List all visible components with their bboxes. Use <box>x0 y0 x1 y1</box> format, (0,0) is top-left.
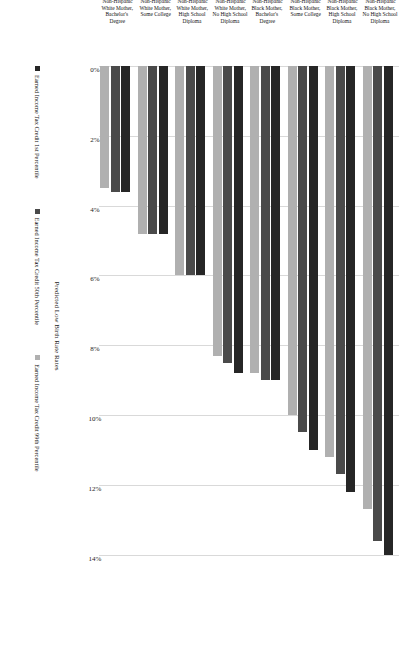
bar-group <box>174 66 212 586</box>
bar-group <box>212 66 250 586</box>
value-axis-tick-labels: 0%2%4%6%8%10%12%14% <box>69 66 95 586</box>
chart-legend: Earned Income Tax Credit 1st PercentileE… <box>11 66 41 626</box>
tick-label: 6% <box>90 275 99 283</box>
category-label: Non-Hispanic Black Mother, High School D… <box>324 0 362 62</box>
bar <box>384 66 393 555</box>
category-label: Non-Hispanic White Mother, Bachelor's De… <box>99 0 137 62</box>
bar <box>336 66 345 474</box>
bar-group <box>362 66 400 586</box>
bar <box>309 66 318 450</box>
bar <box>251 66 260 373</box>
bar <box>363 66 372 509</box>
bar <box>186 66 195 275</box>
bar <box>261 66 270 380</box>
legend-swatch-icon <box>35 209 40 214</box>
bar <box>111 66 120 192</box>
bar-group <box>137 66 175 586</box>
category-label: Non-Hispanic Black Mother, No High Schoo… <box>362 0 400 62</box>
bar <box>326 66 335 457</box>
tick-label: 14% <box>89 555 102 563</box>
tick-label: 12% <box>89 485 102 493</box>
bar-group <box>324 66 362 586</box>
bar-group <box>99 66 137 586</box>
bar-chart: Non-Hispanic Black Mother, No High Schoo… <box>0 0 413 653</box>
tick-label: 0% <box>90 66 99 74</box>
category-label: Non-Hispanic Black Mother, Some College <box>287 0 325 62</box>
bar <box>224 66 233 363</box>
bar <box>176 66 185 275</box>
category-label: Non-Hispanic Black Mother, Bachelor's De… <box>249 0 287 62</box>
bar <box>213 66 222 356</box>
bar <box>374 66 383 541</box>
tick-label: 2% <box>90 136 99 144</box>
bar <box>159 66 168 234</box>
tick-label: 8% <box>90 345 99 353</box>
tick-label: 10% <box>89 415 102 423</box>
bar-group <box>287 66 325 586</box>
legend-item[interactable]: Earned Income Tax Credit 50th Percentile <box>34 209 41 326</box>
bar <box>272 66 281 380</box>
bar <box>138 66 147 234</box>
value-axis-title: Predicted Low Birth Rate Rates <box>53 66 61 586</box>
bar <box>197 66 206 275</box>
legend-label: Earned Income Tax Credit 1st Percentile <box>34 75 41 179</box>
plot-area <box>99 66 399 586</box>
legend-swatch-icon <box>35 66 40 71</box>
category-axis-labels: Non-Hispanic Black Mother, No High Schoo… <box>99 0 399 64</box>
legend-label: Earned Income Tax Credit 50th Percentile <box>34 218 41 326</box>
category-label: Non-Hispanic White Mother, High School D… <box>174 0 212 62</box>
chart-stage: Non-Hispanic Black Mother, No High Schoo… <box>0 0 413 653</box>
bar <box>122 66 131 192</box>
legend-item[interactable]: Earned Income Tax Credit 1st Percentile <box>34 66 41 179</box>
bar <box>299 66 308 432</box>
tick-label: 4% <box>90 206 99 214</box>
bar <box>234 66 243 373</box>
category-label: Non-Hispanic White Mother, No High Schoo… <box>212 0 250 62</box>
bar <box>347 66 356 492</box>
category-label: Non-Hispanic White Mother, Some College <box>137 0 175 62</box>
legend-swatch-icon <box>35 355 40 360</box>
legend-item[interactable]: Earned Income Tax Credit 99th Percentile <box>34 355 41 472</box>
bar-group <box>249 66 287 586</box>
legend-label: Earned Income Tax Credit 99th Percentile <box>34 364 41 472</box>
bar <box>288 66 297 415</box>
bar <box>101 66 110 188</box>
bar <box>149 66 158 234</box>
